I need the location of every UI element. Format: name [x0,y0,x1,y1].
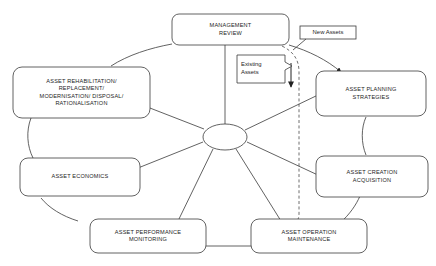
diagram-vector-layer [0,0,436,266]
box-asset-operation [251,219,367,253]
label-existing-assets: Existing Assets [241,56,287,82]
box-asset-creation [316,156,428,197]
box-management-review [172,14,289,45]
central-hub-ellipse [203,124,247,150]
arc-review-to-rehabilitation [111,44,172,66]
spoke-to-asset-creation [247,142,320,176]
diagram-canvas: MANAGEMENT REVIEW ASSET PLANNING STRATEG… [0,0,436,266]
box-asset-economics [20,158,140,196]
spoke-to-asset-operation [236,149,281,221]
box-asset-planning [316,71,426,116]
arc-creation-to-planning [362,117,366,155]
label-new-assets: New Assets [300,26,356,39]
arc-rehabilitation-to-economics [28,118,33,158]
spoke-to-asset-performance [178,149,213,221]
arc-review-to-planning [289,45,341,72]
spoke-to-asset-planning [245,95,318,130]
arc-economics-to-performance [41,198,78,221]
box-asset-performance [90,219,206,253]
box-asset-rehabilitation [13,67,150,118]
